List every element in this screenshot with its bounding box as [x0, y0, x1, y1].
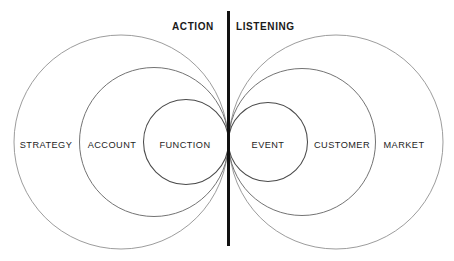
zone-label-event: EVENT: [252, 141, 285, 150]
zone-label-customer: CUSTOMER: [314, 141, 370, 150]
concentric-circles-diagram: [0, 0, 454, 261]
zone-label-account: ACCOUNT: [88, 141, 137, 150]
zone-label-function: FUNCTION: [159, 141, 210, 150]
zone-label-market: MARKET: [384, 141, 425, 150]
header-listening: LISTENING: [236, 22, 295, 32]
zone-label-strategy: STRATEGY: [20, 141, 72, 150]
header-action: ACTION: [172, 22, 214, 32]
diagram-canvas: ACTION LISTENING STRATEGY ACCOUNT FUNCTI…: [0, 0, 454, 261]
